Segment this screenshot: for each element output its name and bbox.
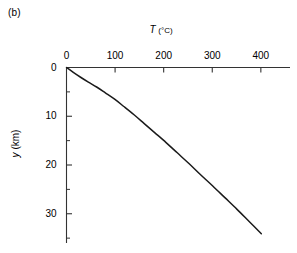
y-tick-label: 10 [29, 110, 57, 121]
x-tick-label: 200 [149, 50, 179, 61]
axes-lines [67, 68, 291, 244]
y-tick-label: 0 [29, 62, 57, 73]
figure-panel-b: (b) T (°C) y (km) 01002003004000102030 [0, 0, 297, 253]
y-tick-label: 20 [29, 159, 57, 170]
y-tick-label: 30 [29, 208, 57, 219]
x-tick-label: 100 [100, 50, 130, 61]
x-tick-label: 400 [246, 50, 276, 61]
series-line-geotherm [67, 68, 262, 234]
data-series-group [67, 68, 262, 234]
y-tick-marks [67, 92, 73, 238]
x-tick-marks [115, 68, 261, 73]
x-tick-label: 300 [197, 50, 227, 61]
x-tick-label: 0 [52, 50, 82, 61]
